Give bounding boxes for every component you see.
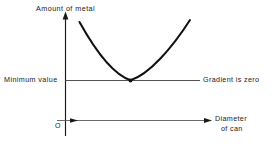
- gradient-is-zero-label: Gradient is zero: [203, 75, 259, 84]
- amount-of-metal-curve: [80, 20, 191, 80]
- x-axis-label-line-1: Diameter: [215, 114, 247, 123]
- y-axis-label: Amount of metal: [36, 4, 95, 13]
- x-axis-origin-arrowhead: [70, 118, 78, 123]
- x-axis: [57, 118, 212, 123]
- origin-label: O: [55, 121, 61, 130]
- x-axis-label: Diameterof can: [215, 114, 247, 133]
- x-axis-label-line-2: of can: [215, 124, 247, 134]
- metal-vs-diameter-figure: Amount of metal Minimum value Gradient i…: [0, 0, 273, 150]
- y-axis: [63, 12, 69, 137]
- minimum-value-label: Minimum value: [4, 75, 58, 84]
- minimum-point-marker: [129, 78, 133, 82]
- x-axis-arrowhead: [204, 118, 212, 123]
